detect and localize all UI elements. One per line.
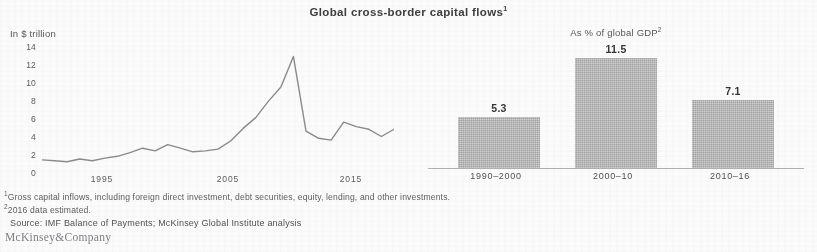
- exhibit-container: Global cross-border capital flows1 In $ …: [0, 0, 817, 252]
- bar-column: 7.1: [692, 44, 774, 168]
- page-title-footnote-marker: 1: [503, 5, 507, 12]
- line-x-tick: 1995: [91, 174, 114, 184]
- line-chart-panel: In $ trillion 14 12 10 8 6 4 2 0 1995 20…: [6, 28, 406, 188]
- bar-column: 11.5: [575, 44, 657, 168]
- bar-category-label: 2000–10: [565, 171, 661, 181]
- line-x-tick: 2005: [217, 174, 240, 184]
- footnotes-block: 1Gross capital inflows, including foreig…: [4, 189, 814, 229]
- line-y-tick: 8: [16, 96, 36, 106]
- line-y-tick: 14: [16, 42, 36, 52]
- footnote-1-text: Gross capital inflows, including foreign…: [8, 192, 450, 202]
- bar-chart-unit-label: As % of global GDP2: [420, 26, 812, 38]
- bar-rect: [575, 58, 657, 168]
- bar-value-label: 5.3: [458, 102, 540, 114]
- source-line: Source: IMF Balance of Payments; McKinse…: [4, 217, 814, 229]
- bar-chart-baseline: [428, 168, 804, 169]
- line-y-tick: 10: [16, 78, 36, 88]
- bar-category-label: 2010–16: [682, 171, 778, 181]
- bar-rect: [692, 100, 774, 168]
- bar-category-label: 1990–2000: [448, 171, 544, 181]
- mckinsey-logo: McKinsey&Company: [5, 231, 111, 243]
- line-y-tick: 0: [16, 168, 36, 178]
- bar-chart-plot: 5.3 11.5 7.1: [430, 44, 802, 168]
- bar-column: 5.3: [458, 44, 540, 168]
- bar-chart-unit-text: As % of global GDP: [570, 27, 658, 38]
- bar-rect: [458, 117, 540, 168]
- line-chart-plot: [42, 42, 394, 168]
- line-y-tick: 12: [16, 60, 36, 70]
- capital-flows-line-series: [42, 56, 394, 161]
- footnote-2: 22016 data estimated.: [4, 202, 814, 215]
- line-chart-unit-label: In $ trillion: [10, 28, 56, 39]
- page-title: Global cross-border capital flows1: [0, 5, 817, 18]
- bar-value-label: 11.5: [575, 43, 657, 55]
- page-title-text: Global cross-border capital flows: [310, 6, 504, 18]
- footnote-2-text: 2016 data estimated.: [8, 205, 91, 215]
- bar-chart-panel: As % of global GDP2 5.3 11.5 7.1 1990–20…: [420, 26, 812, 188]
- line-y-tick: 2: [16, 150, 36, 160]
- line-y-tick: 4: [16, 132, 36, 142]
- line-x-tick: 2015: [340, 174, 363, 184]
- bar-chart-footnote-marker: 2: [658, 26, 662, 33]
- footnote-1: 1Gross capital inflows, including foreig…: [4, 189, 814, 202]
- bar-value-label: 7.1: [692, 85, 774, 97]
- line-y-tick: 6: [16, 114, 36, 124]
